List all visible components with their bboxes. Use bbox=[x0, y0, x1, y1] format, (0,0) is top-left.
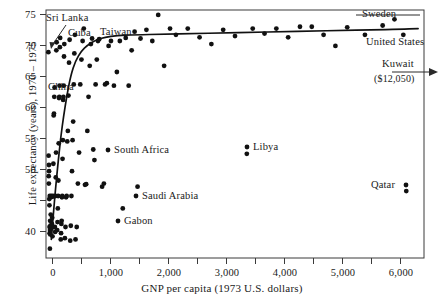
data-point-markers bbox=[46, 13, 409, 252]
data-point bbox=[46, 50, 51, 55]
data-point bbox=[61, 94, 66, 99]
data-point bbox=[67, 60, 72, 65]
data-point bbox=[104, 81, 109, 86]
data-point bbox=[93, 82, 98, 87]
data-point bbox=[94, 57, 99, 62]
data-point bbox=[120, 206, 125, 211]
x-axis-title: GNP per capita (1973 U.S. dollars) bbox=[0, 283, 444, 294]
data-point bbox=[58, 237, 63, 242]
y-tick-label-75: 75 bbox=[16, 10, 36, 21]
data-point bbox=[138, 36, 143, 41]
data-point bbox=[114, 70, 119, 75]
dot-qatar bbox=[404, 183, 409, 188]
data-point bbox=[78, 82, 83, 87]
data-point bbox=[87, 63, 92, 68]
data-point bbox=[144, 27, 149, 32]
x-tick-label-4000: 4,000 bbox=[268, 268, 302, 279]
annotation-kuwait: Kuwait bbox=[382, 59, 414, 70]
data-point bbox=[52, 94, 57, 99]
data-point bbox=[129, 48, 134, 53]
data-point bbox=[55, 228, 60, 233]
data-point bbox=[106, 44, 111, 49]
scatter-plot-figure: 75 70 65 60 55 50 40 Life expectancy (ye… bbox=[0, 0, 444, 304]
data-point bbox=[132, 29, 137, 34]
annotation-united-states: United States bbox=[366, 37, 424, 48]
data-point bbox=[63, 225, 68, 230]
data-point bbox=[345, 25, 350, 30]
data-point bbox=[197, 35, 202, 40]
data-point bbox=[65, 129, 70, 134]
data-point bbox=[64, 194, 69, 199]
data-point bbox=[47, 163, 52, 168]
data-point bbox=[68, 223, 73, 228]
x-tick-label-2000: 2,000 bbox=[152, 268, 186, 279]
annotation-cuba: Cuba bbox=[68, 28, 91, 39]
data-point bbox=[150, 39, 155, 44]
data-point bbox=[209, 42, 214, 47]
data-point bbox=[79, 57, 84, 62]
data-point bbox=[126, 83, 131, 88]
data-point bbox=[77, 150, 82, 155]
data-point bbox=[404, 189, 409, 194]
x-tick-label-0: 0 bbox=[37, 268, 69, 279]
data-point bbox=[233, 34, 238, 39]
annotation-sri-lanka: Sri Lanka bbox=[46, 13, 88, 24]
data-point bbox=[54, 150, 59, 155]
x-tick-label-5000: 5,000 bbox=[326, 268, 360, 279]
data-point bbox=[62, 42, 67, 47]
data-point bbox=[59, 231, 64, 236]
data-point bbox=[62, 54, 67, 59]
data-point bbox=[86, 94, 91, 99]
annotation-china: China bbox=[48, 82, 74, 93]
y-axis-ticks bbox=[40, 15, 46, 232]
data-point bbox=[333, 44, 338, 49]
data-point bbox=[162, 63, 167, 68]
dot-saudi-arabia bbox=[134, 194, 139, 199]
x-tick-label-6000: 6,000 bbox=[384, 268, 418, 279]
data-point bbox=[321, 32, 326, 37]
fitted-curve-path bbox=[51, 29, 418, 240]
data-point bbox=[73, 237, 78, 242]
data-point bbox=[380, 23, 385, 28]
annotation-dots bbox=[106, 145, 409, 224]
data-point bbox=[57, 94, 62, 99]
data-point bbox=[72, 51, 77, 56]
y-axis-title: Life expectancy (years), 1970 – 1975 bbox=[28, 28, 39, 218]
data-point bbox=[47, 203, 52, 208]
data-point bbox=[48, 246, 53, 251]
data-point bbox=[68, 238, 73, 243]
annotation-taiwan: Taiwan bbox=[100, 27, 132, 38]
data-point bbox=[63, 236, 68, 241]
data-point bbox=[185, 26, 190, 31]
annotation-kuwait-value: ($12,050) bbox=[374, 74, 415, 84]
dot-gabon bbox=[116, 219, 121, 224]
annotation-qatar: Qatar bbox=[371, 180, 395, 191]
y-tick-label-40: 40 bbox=[16, 227, 36, 238]
data-point bbox=[52, 111, 57, 116]
data-point bbox=[135, 184, 140, 189]
data-point bbox=[80, 39, 85, 44]
data-point bbox=[60, 156, 65, 161]
data-point bbox=[51, 161, 56, 166]
data-point bbox=[74, 225, 79, 230]
data-point bbox=[91, 147, 96, 152]
data-point bbox=[221, 27, 226, 32]
data-point bbox=[70, 138, 75, 143]
data-point bbox=[168, 26, 173, 31]
annotation-libya: Libya bbox=[253, 142, 278, 153]
annotation-gabon: Gabon bbox=[124, 216, 153, 227]
data-point bbox=[286, 35, 291, 40]
data-point bbox=[244, 151, 249, 156]
data-point bbox=[46, 153, 51, 158]
data-point bbox=[70, 169, 75, 174]
data-point bbox=[109, 39, 114, 44]
data-point bbox=[46, 181, 51, 186]
data-point bbox=[59, 218, 64, 223]
x-tick-label-3000: 3,000 bbox=[210, 268, 244, 279]
annotation-south-africa: South Africa bbox=[114, 145, 169, 156]
x-axis-ticks bbox=[53, 258, 401, 264]
data-point bbox=[75, 181, 80, 186]
data-point bbox=[65, 139, 70, 144]
dot-libya bbox=[245, 145, 250, 150]
data-point bbox=[309, 24, 314, 29]
